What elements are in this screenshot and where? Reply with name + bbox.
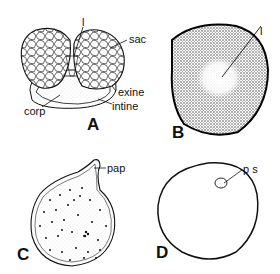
- panel-label-b: B: [172, 124, 184, 141]
- panel-d-drawing: [158, 163, 258, 259]
- panel-label-a: A: [87, 116, 99, 133]
- label-a-sac: sac: [129, 34, 146, 45]
- panel-label-d: D: [156, 244, 168, 261]
- label-a-exine: exine: [118, 87, 144, 98]
- panel-label-c: C: [17, 246, 29, 263]
- label-b-leptoma: l: [260, 26, 262, 37]
- label-a-intine: intine: [112, 101, 138, 112]
- panel-c-drawing: [31, 160, 115, 266]
- label-d-ps: p s: [243, 164, 258, 175]
- panel-a-drawing: [21, 27, 127, 108]
- label-a-leptoma: l: [82, 17, 84, 28]
- panel-b-drawing: [172, 25, 268, 135]
- label-a-corp: corp: [24, 106, 45, 117]
- label-c-pap: pap: [107, 163, 125, 174]
